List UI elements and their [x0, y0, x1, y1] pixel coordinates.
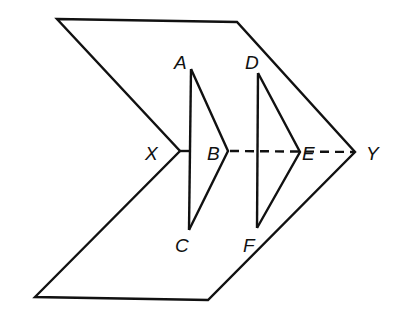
- label-f: F: [243, 235, 256, 256]
- label-x: X: [144, 143, 159, 164]
- segment-ac: [189, 69, 191, 230]
- label-d: D: [245, 52, 259, 73]
- label-b: B: [207, 143, 220, 164]
- segment-df: [257, 73, 258, 228]
- label-e: E: [302, 143, 315, 164]
- label-y: Y: [366, 143, 380, 164]
- label-a: A: [173, 52, 187, 73]
- edge-by-dashed: [230, 151, 355, 152]
- dihedral-diagram: A C D F X B E Y: [0, 0, 406, 314]
- label-c: C: [175, 235, 189, 256]
